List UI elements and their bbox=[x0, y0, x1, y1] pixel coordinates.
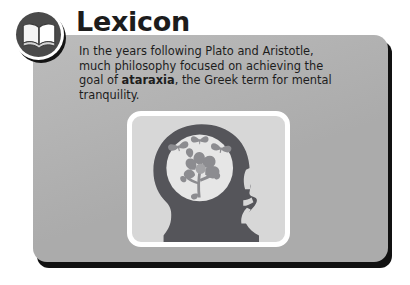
open-book-icon bbox=[13, 9, 64, 60]
definition-paragraph: In the years following Plato and Aristot… bbox=[79, 44, 341, 102]
open-book-glyph bbox=[21, 21, 57, 49]
head-with-flowers-and-butterflies-icon bbox=[132, 116, 285, 242]
emphasis-term: ataraxia bbox=[122, 73, 175, 87]
illustration-frame bbox=[127, 111, 290, 247]
page-title: Lexicon bbox=[76, 6, 190, 38]
